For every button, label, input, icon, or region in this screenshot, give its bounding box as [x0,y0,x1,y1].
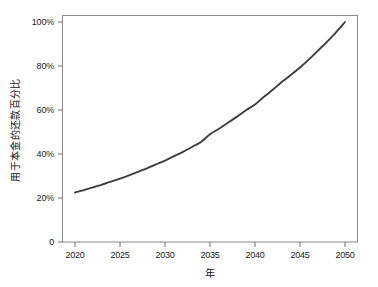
plot-canvas [0,0,378,287]
y-tick-label-40: 40% [16,149,54,159]
x-tick-label-2040: 2040 [245,250,264,260]
x-tick-label-2025: 2025 [110,250,129,260]
y-tick-label-80: 80% [16,61,54,71]
y-tick-label-60: 60% [16,105,54,115]
figure-background [0,0,378,287]
y-axis-title: 用于本金的还款百分比 [7,45,22,215]
x-tick-label-2045: 2045 [290,250,309,260]
x-tick-label-2050: 2050 [335,250,354,260]
y-tick-label-0: 0 [16,237,54,247]
y-tick-label-20: 20% [16,193,54,203]
x-tick-label-2020: 2020 [65,250,84,260]
x-axis-title: 年 [205,265,215,280]
x-tick-label-2030: 2030 [155,250,174,260]
chart-figure: 100% 80% 60% 40% 20% 0 2020 2025 2030 20… [0,0,378,287]
y-tick-label-100: 100% [16,17,54,27]
x-tick-label-2035: 2035 [200,250,219,260]
